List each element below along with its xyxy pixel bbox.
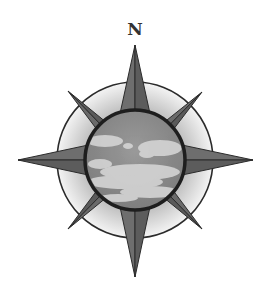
north-label: N [127, 19, 143, 39]
sky-disc [85, 110, 185, 210]
compass-rose: N [0, 0, 274, 296]
